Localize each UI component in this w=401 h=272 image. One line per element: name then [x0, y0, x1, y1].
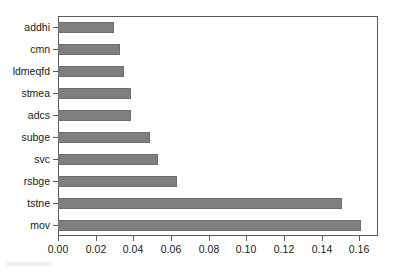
y-tick	[53, 71, 58, 72]
y-tick	[53, 225, 58, 226]
bar-rsbge	[58, 176, 177, 187]
y-tick-label-stmea: stmea	[21, 88, 50, 99]
y-tick	[53, 49, 58, 50]
y-tick	[53, 203, 58, 204]
x-tick	[246, 236, 247, 241]
scan-artifact	[6, 262, 52, 266]
y-tick-label-mov: mov	[30, 220, 50, 231]
y-tick-label-subge: subge	[21, 132, 50, 143]
x-tick	[322, 236, 323, 241]
y-tick	[53, 159, 58, 160]
bar-addhi	[58, 22, 114, 33]
x-tick-label-0.06: 0.06	[151, 243, 191, 256]
y-tick	[53, 115, 58, 116]
x-tick-label-0.02: 0.02	[76, 243, 116, 256]
y-tick	[53, 93, 58, 94]
x-tick	[359, 236, 360, 241]
plot-area	[58, 16, 378, 236]
bar-ldmeqfd	[58, 66, 124, 77]
x-tick-label-0.14: 0.14	[302, 243, 342, 256]
x-tick-label-0.04: 0.04	[113, 243, 153, 256]
y-tick-label-tstne: tstne	[27, 198, 50, 209]
x-tick-label-0.08: 0.08	[189, 243, 229, 256]
y-tick	[53, 137, 58, 138]
x-tick	[284, 236, 285, 241]
y-tick-label-cmn: cmn	[30, 44, 50, 55]
bar-cmn	[58, 44, 120, 55]
x-tick	[96, 236, 97, 241]
x-tick	[133, 236, 134, 241]
y-tick-label-rsbge: rsbge	[24, 176, 50, 187]
x-tick	[171, 236, 172, 241]
y-tick-label-ldmeqfd: ldmeqfd	[13, 66, 50, 77]
y-tick	[53, 181, 58, 182]
bar-subge	[58, 132, 150, 143]
bar-adcs	[58, 110, 131, 121]
y-tick-label-adcs: adcs	[28, 110, 50, 121]
x-tick-label-0.00: 0.00	[38, 243, 78, 256]
x-tick-label-0.10: 0.10	[226, 243, 266, 256]
bar-svc	[58, 154, 158, 165]
bar-stmea	[58, 88, 131, 99]
x-tick-label-0.12: 0.12	[264, 243, 304, 256]
x-tick	[58, 236, 59, 241]
bar-chart: addhicmnldmeqfdstmeaadcssubgesvcrsbgetst…	[0, 0, 401, 272]
y-tick	[53, 27, 58, 28]
bar-tstne	[58, 198, 342, 209]
x-tick-label-0.16: 0.16	[339, 243, 379, 256]
bar-mov	[58, 220, 361, 231]
x-tick	[209, 236, 210, 241]
y-tick-label-svc: svc	[34, 154, 50, 165]
y-tick-label-addhi: addhi	[24, 22, 50, 33]
